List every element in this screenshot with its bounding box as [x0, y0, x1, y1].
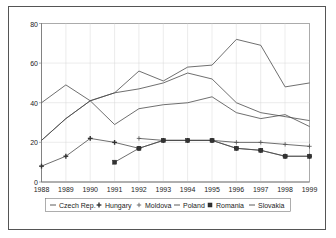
series-marker — [308, 154, 312, 158]
legend-label: Slovakia — [258, 202, 285, 209]
x-tick-label: 1989 — [58, 186, 74, 193]
x-tick-label: 1998 — [277, 186, 293, 193]
series-marker — [161, 138, 165, 142]
line-chart: 80 60 40 20 0 1988 1989 1990 1991 1992 1… — [0, 0, 336, 238]
y-tick-label: 40 — [30, 100, 38, 107]
legend-label: Hungary — [105, 202, 132, 210]
x-tick-labels: 1988 1989 1990 1991 1992 1993 1994 1995 … — [34, 186, 318, 193]
series-marker — [113, 160, 117, 164]
series-marker — [210, 138, 214, 142]
x-tick-label: 1991 — [107, 186, 123, 193]
x-tick-label: 1994 — [180, 186, 196, 193]
legend-label: Moldova — [145, 202, 172, 209]
legend-label: Czech Rep. — [59, 202, 96, 210]
y-tick-label: 60 — [30, 60, 38, 67]
series-marker — [283, 154, 287, 158]
series-marker — [259, 148, 263, 152]
series-marker — [137, 146, 141, 150]
x-tick-label: 1997 — [253, 186, 269, 193]
x-tick-label: 1988 — [34, 186, 50, 193]
legend-marker-swatch — [208, 203, 212, 207]
x-tick-label: 1995 — [204, 186, 220, 193]
legend-label: Romania — [216, 202, 244, 209]
series-marker — [186, 138, 190, 142]
y-tick-label: 0 — [34, 179, 38, 186]
x-tick-label: 1993 — [156, 186, 172, 193]
x-tick-label: 1999 — [302, 186, 318, 193]
x-tick-label: 1996 — [229, 186, 245, 193]
x-tick-label: 1990 — [82, 186, 98, 193]
chart-svg: 80 60 40 20 0 1988 1989 1990 1991 1992 1… — [0, 0, 336, 238]
y-tick-label: 80 — [30, 21, 38, 28]
y-tick-labels: 80 60 40 20 0 — [30, 21, 38, 186]
legend-label: Poland — [183, 202, 205, 209]
y-tick-label: 20 — [30, 139, 38, 146]
x-tick-label: 1992 — [131, 186, 147, 193]
series-marker — [234, 146, 238, 150]
